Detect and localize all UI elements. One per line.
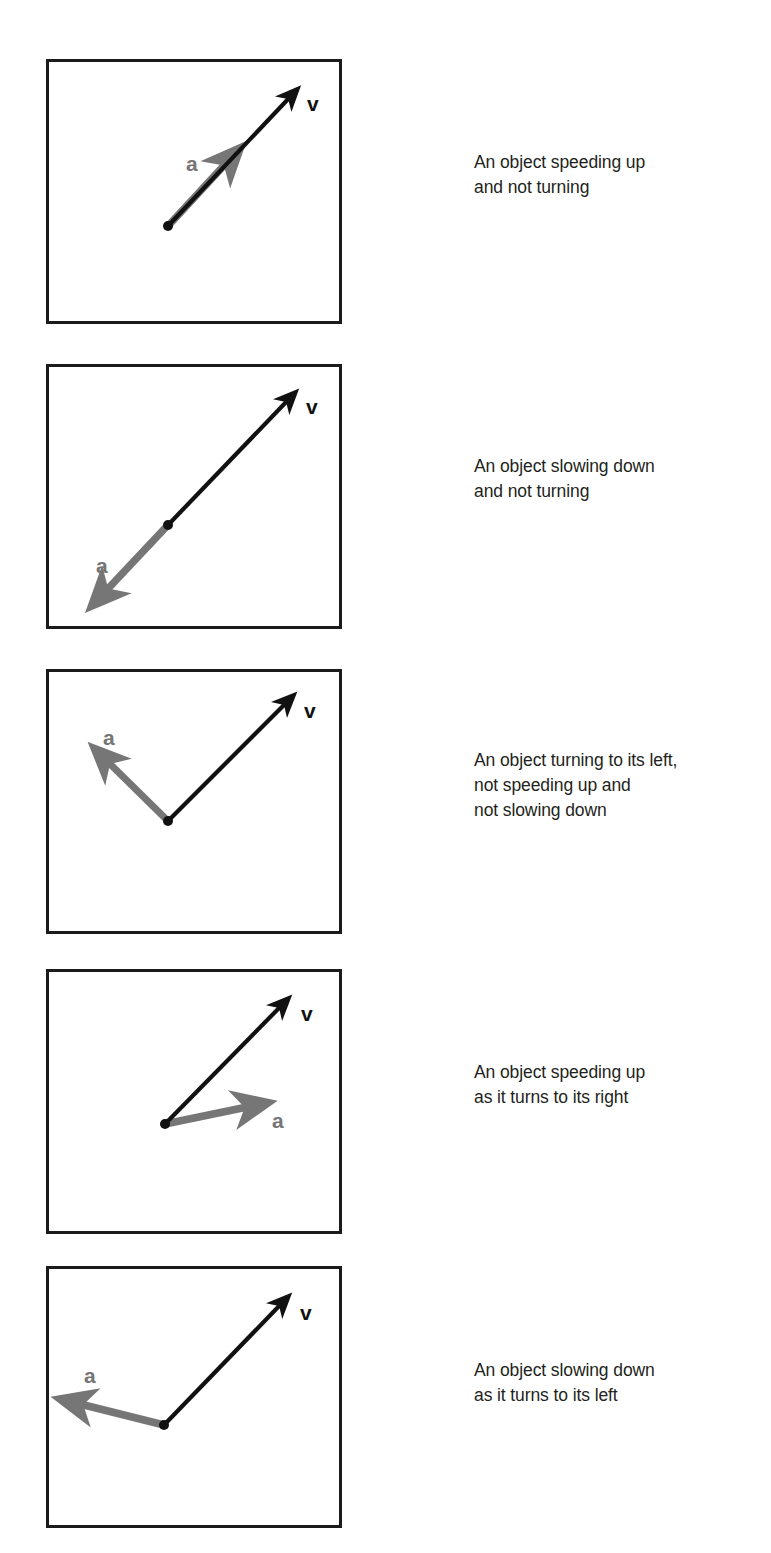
caption-3-line-3: not slowing down: [474, 798, 764, 823]
caption-4-line-1: An object speeding up: [474, 1060, 764, 1085]
panel-2: v a: [46, 364, 342, 629]
panel-5: v a: [46, 1266, 342, 1528]
origin-dot: [163, 221, 173, 231]
acceleration-vector: [103, 525, 168, 594]
origin-dot: [160, 1119, 170, 1129]
acceleration-vector: [76, 1403, 164, 1425]
caption-1-line-1: An object speeding up: [474, 150, 764, 175]
caption-5-line-2: as it turns to its left: [474, 1383, 764, 1408]
caption-3-line-2: not speeding up and: [474, 773, 764, 798]
velocity-vector: [168, 702, 287, 821]
caption-4: An object speeding up as it turns to its…: [474, 1060, 764, 1110]
velocity-label: v: [307, 92, 319, 115]
vector-figure: v a v a: [0, 0, 771, 1553]
caption-2-line-1: An object slowing down: [474, 454, 764, 479]
panel-5-vectors: v a: [46, 1266, 342, 1528]
velocity-vector: [165, 1005, 282, 1124]
panel-1-vectors: v a: [46, 59, 342, 324]
caption-1-line-2: and not turning: [474, 175, 764, 200]
acceleration-label: a: [272, 1109, 284, 1132]
velocity-label: v: [301, 1002, 313, 1025]
panel-3-vectors: v a: [46, 669, 342, 934]
panel-1: v a: [46, 59, 342, 324]
velocity-label: v: [300, 1301, 312, 1324]
acceleration-label: a: [103, 726, 115, 749]
panel-4-vectors: v a: [46, 969, 342, 1234]
caption-2: An object slowing down and not turning: [474, 454, 764, 504]
caption-4-line-2: as it turns to its right: [474, 1085, 764, 1110]
panel-3: v a: [46, 669, 342, 934]
caption-5-line-1: An object slowing down: [474, 1358, 764, 1383]
velocity-label: v: [304, 699, 316, 722]
velocity-label: v: [306, 395, 318, 418]
caption-3-line-1: An object turning to its left,: [474, 748, 764, 773]
velocity-vector: [164, 1303, 282, 1425]
caption-1: An object speeding up and not turning: [474, 150, 764, 200]
caption-3: An object turning to its left, not speed…: [474, 748, 764, 823]
velocity-vector: [168, 399, 289, 525]
origin-dot: [163, 520, 173, 530]
caption-2-line-2: and not turning: [474, 479, 764, 504]
acceleration-label: a: [96, 554, 108, 577]
acceleration-label: a: [84, 1364, 96, 1387]
origin-dot: [159, 1420, 169, 1430]
caption-5: An object slowing down as it turns to it…: [474, 1358, 764, 1408]
panel-2-vectors: v a: [46, 364, 342, 629]
origin-dot: [163, 816, 173, 826]
acceleration-label: a: [186, 152, 198, 175]
acceleration-vector: [105, 759, 168, 821]
panel-4: v a: [46, 969, 342, 1234]
